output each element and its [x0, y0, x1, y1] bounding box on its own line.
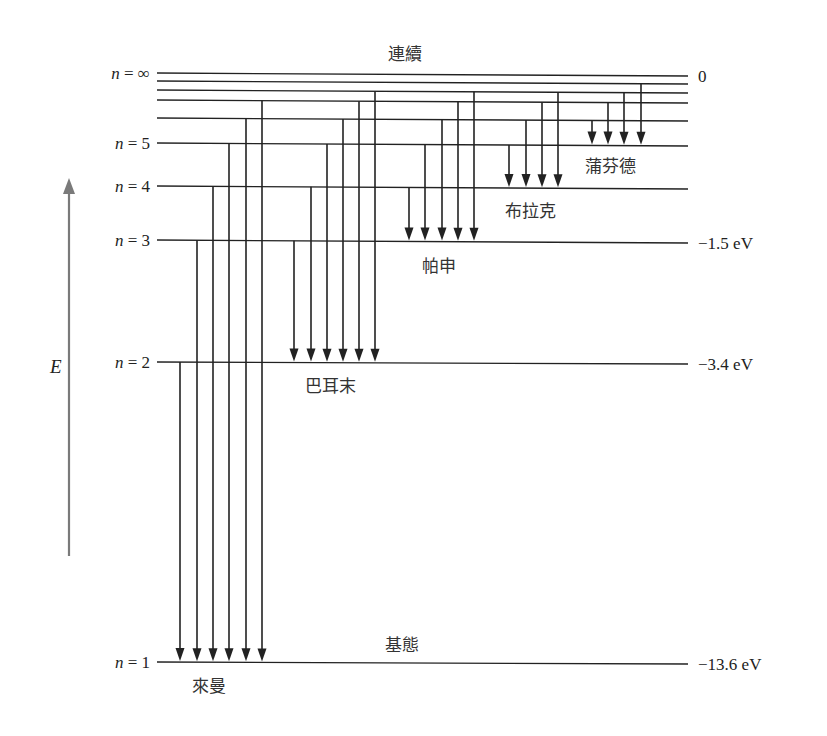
series-label: 蒲芬德 — [585, 156, 636, 176]
level-energy-value: −3.4 eV — [698, 355, 754, 374]
arrowhead-icon — [290, 349, 299, 362]
arrowhead-icon — [421, 228, 430, 241]
arrowhead-icon — [438, 228, 447, 241]
arrowhead-icon — [371, 349, 380, 362]
level-label: n = 2 — [115, 353, 150, 372]
arrowhead-icon — [522, 174, 531, 187]
energy-level-n-8 — [157, 90, 688, 93]
energy-level-n-9 — [157, 81, 688, 84]
arrowhead-icon — [405, 227, 414, 240]
arrowhead-icon — [505, 174, 514, 187]
level-label: n = 4 — [115, 177, 151, 196]
level-label: n = ∞ — [111, 64, 150, 83]
arrowhead-icon — [588, 131, 597, 144]
level-energy-value: 0 — [698, 67, 707, 86]
arrowhead-icon — [355, 349, 364, 362]
arrowhead-icon — [620, 132, 629, 145]
series-arrows-0 — [176, 101, 267, 662]
energy-axis: E — [49, 178, 75, 556]
series-arrows-1 — [290, 91, 380, 362]
level-label: n = 1 — [115, 653, 150, 672]
energy-level-n-2: n = 2−3.4 eV — [115, 353, 754, 374]
arrowhead-icon — [258, 648, 267, 661]
series-label: 帕申 — [422, 256, 456, 276]
axis-arrow-icon — [63, 178, 75, 194]
series-arrows-3 — [505, 92, 563, 187]
arrowhead-icon — [176, 648, 185, 661]
continuum-label: 連續 — [388, 44, 422, 64]
arrowhead-icon — [193, 648, 202, 661]
arrowhead-icon — [339, 349, 348, 362]
arrowhead-icon — [307, 349, 316, 362]
energy-level-n-5: n = 5 — [115, 134, 688, 153]
arrowhead-icon — [470, 228, 479, 241]
energy-axis-label: E — [49, 356, 62, 377]
arrowhead-icon — [209, 648, 218, 661]
arrowhead-icon — [604, 132, 613, 145]
level-label: n = 5 — [115, 134, 150, 153]
energy-level-n-4: n = 4 — [115, 177, 688, 196]
level-label: n = 3 — [115, 231, 150, 250]
series-label: 巴耳末 — [305, 376, 356, 396]
energy-level-svg: 連續 基態 E n = ∞0n = 5n = 4n = 3−1.5 eVn = … — [0, 0, 827, 736]
series-arrows-2 — [405, 92, 479, 241]
arrowhead-icon — [554, 174, 563, 187]
energy-levels: n = ∞0n = 5n = 4n = 3−1.5 eVn = 2−3.4 eV… — [111, 64, 762, 674]
arrowhead-icon — [323, 349, 332, 362]
arrowhead-icon — [637, 132, 646, 145]
series-labels: 來曼巴耳末帕申布拉克蒲芬德 — [192, 156, 636, 696]
arrowhead-icon — [225, 648, 234, 661]
level-energy-value: −1.5 eV — [698, 234, 754, 253]
level-energy-value: −13.6 eV — [698, 655, 762, 674]
energy-level-n-3: n = 3−1.5 eV — [115, 231, 754, 253]
arrowhead-icon — [538, 174, 547, 187]
arrowhead-icon — [454, 228, 463, 241]
series-label: 來曼 — [192, 676, 226, 696]
series-label: 布拉克 — [505, 201, 556, 221]
ground-state-label: 基態 — [385, 635, 419, 655]
transition-arrows — [176, 84, 646, 662]
hydrogen-energy-level-diagram: 連續 基態 E n = ∞0n = 5n = 4n = 3−1.5 eVn = … — [0, 0, 827, 736]
arrowhead-icon — [242, 648, 251, 661]
